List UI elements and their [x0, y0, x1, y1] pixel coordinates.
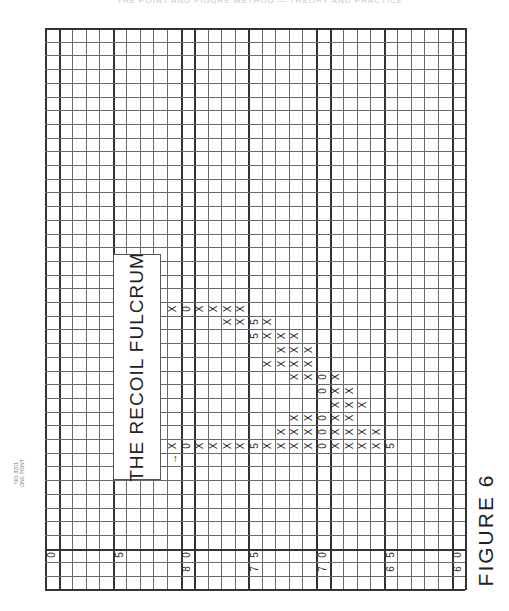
price-digit: 0: [316, 439, 330, 453]
x-mark: X: [343, 425, 357, 439]
x-mark: X: [357, 398, 371, 412]
x-mark: X: [221, 439, 235, 453]
x-mark: X: [302, 425, 316, 439]
axis-label: 0: [45, 549, 59, 563]
price-digit: 5: [248, 439, 262, 453]
x-mark: X: [167, 302, 181, 316]
x-mark: X: [343, 439, 357, 453]
x-mark: X: [275, 425, 289, 439]
grid-hline: [45, 192, 465, 193]
price-digit: 5: [248, 329, 262, 343]
graph-paper-id: NO. 3201 ONE POINT: [13, 453, 43, 493]
x-mark: X: [370, 439, 384, 453]
axis-label: 5: [384, 549, 398, 563]
x-mark: X: [275, 439, 289, 453]
grid-vline: [45, 28, 47, 590]
grid-hline: [45, 69, 465, 70]
x-mark: X: [275, 343, 289, 357]
x-mark: X: [330, 439, 344, 453]
axis-label: 7: [316, 562, 330, 576]
grid-hline: [45, 83, 465, 84]
axis-label: 0: [452, 549, 466, 563]
x-mark: X: [289, 371, 303, 385]
grid-hline: [45, 206, 465, 207]
x-mark: X: [194, 302, 208, 316]
grid-hline: [45, 234, 465, 235]
grid-vline: [86, 28, 87, 590]
axis-label: 6: [384, 562, 398, 576]
grid-hline: [45, 151, 465, 152]
figure-caption-text: FIGURE 6: [474, 474, 498, 587]
x-mark: X: [289, 357, 303, 371]
grid-vline: [262, 28, 263, 590]
x-mark: X: [167, 439, 181, 453]
x-mark: X: [370, 425, 384, 439]
grid-hline: [45, 425, 465, 426]
grid-hline: [45, 589, 465, 591]
grid-hline: [45, 480, 465, 481]
grid-hline: [45, 398, 465, 399]
grid-hline: [45, 220, 465, 221]
grid-vline: [411, 28, 412, 590]
grid-hline: [45, 343, 465, 344]
price-digit: 5: [248, 316, 262, 330]
grid-vline: [343, 28, 344, 590]
x-mark: X: [194, 439, 208, 453]
grid-hline: [45, 412, 465, 413]
x-mark: X: [289, 329, 303, 343]
grid-hline: [45, 288, 465, 289]
x-mark: X: [343, 384, 357, 398]
x-mark: X: [289, 425, 303, 439]
grid-hline: [45, 494, 465, 495]
axis-label: 6: [452, 562, 466, 576]
grid-hline: [45, 384, 465, 385]
page-header: THE POINT AND FIGURE METHOD — THEORY AND…: [100, 0, 420, 6]
x-mark: X: [289, 439, 303, 453]
x-mark: X: [262, 357, 276, 371]
axis-label: 5: [248, 549, 262, 563]
grid-hline: [45, 453, 465, 454]
x-mark: X: [330, 412, 344, 426]
x-mark: X: [262, 439, 276, 453]
price-digit: 0: [316, 371, 330, 385]
x-mark: X: [289, 412, 303, 426]
grid-vline: [72, 28, 73, 590]
grid-vline: [384, 28, 386, 590]
grid-vline: [59, 28, 61, 590]
x-mark: X: [357, 425, 371, 439]
x-mark: X: [208, 439, 222, 453]
grid-vline: [452, 28, 454, 590]
grid-vline: [370, 28, 371, 590]
x-mark: X: [275, 329, 289, 343]
grid-hline: [45, 179, 465, 180]
grid-vline: [357, 28, 358, 590]
grid-hline: [45, 42, 465, 43]
x-mark: X: [289, 343, 303, 357]
figure-caption: FIGURE 6: [466, 470, 506, 590]
arrow-marker: →: [167, 453, 181, 467]
x-mark: X: [221, 302, 235, 316]
grid-hline: [45, 138, 465, 139]
axis-label: 0: [316, 549, 330, 563]
grid-hline: [45, 165, 465, 166]
grid-vline: [424, 28, 425, 590]
axis-label: 7: [248, 562, 262, 576]
grid-hline: [45, 275, 465, 276]
grid-hline: [45, 466, 465, 467]
x-mark: X: [330, 384, 344, 398]
price-digit: 0: [181, 439, 195, 453]
grid-vline: [316, 28, 318, 590]
x-mark: X: [221, 316, 235, 330]
chart-title: THE RECOIL FULCRUM: [126, 252, 148, 481]
grid-hline: [45, 508, 465, 509]
axis-label: 5: [113, 549, 127, 563]
grid-hline: [45, 302, 465, 303]
x-mark: X: [343, 398, 357, 412]
x-mark: X: [302, 371, 316, 385]
axis-label: 0: [181, 549, 195, 563]
grid-vline: [99, 28, 100, 590]
x-mark: X: [262, 316, 276, 330]
chart-title-box: THE RECOIL FULCRUM: [113, 254, 161, 480]
price-digit: 0: [316, 384, 330, 398]
grid-hline: [45, 28, 465, 30]
